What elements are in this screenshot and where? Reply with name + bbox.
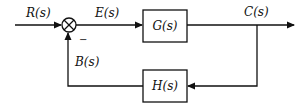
forward-block: G(s) (143, 10, 187, 42)
feedback-label: B(s) (74, 55, 100, 69)
block-diagram: R(s) − E(s) G(s) C(s) H(s) B(s) (0, 0, 302, 111)
minus-sign: − (79, 34, 87, 45)
error-label: E(s) (94, 6, 120, 20)
feedback-block: H(s) (143, 70, 187, 102)
feedback-branch-wire (188, 25, 257, 86)
output-label: C(s) (244, 5, 269, 19)
input-label: R(s) (25, 6, 51, 20)
summing-junction (62, 18, 76, 32)
forward-block-label: G(s) (152, 19, 177, 33)
feedback-block-label: H(s) (151, 79, 178, 93)
